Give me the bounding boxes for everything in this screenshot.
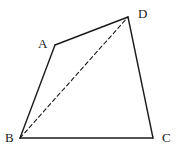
- vertex-label-a: A: [38, 36, 48, 51]
- edge-a-d: [55, 17, 128, 45]
- vertex-label-d: D: [138, 6, 147, 21]
- edge-d-c: [128, 17, 153, 138]
- vertex-label-c: C: [162, 130, 171, 145]
- vertex-label-b: B: [5, 130, 14, 145]
- diagonal-b-d: [20, 17, 128, 138]
- edge-b-a: [20, 45, 55, 138]
- quadrilateral-diagram: A B C D: [0, 0, 179, 147]
